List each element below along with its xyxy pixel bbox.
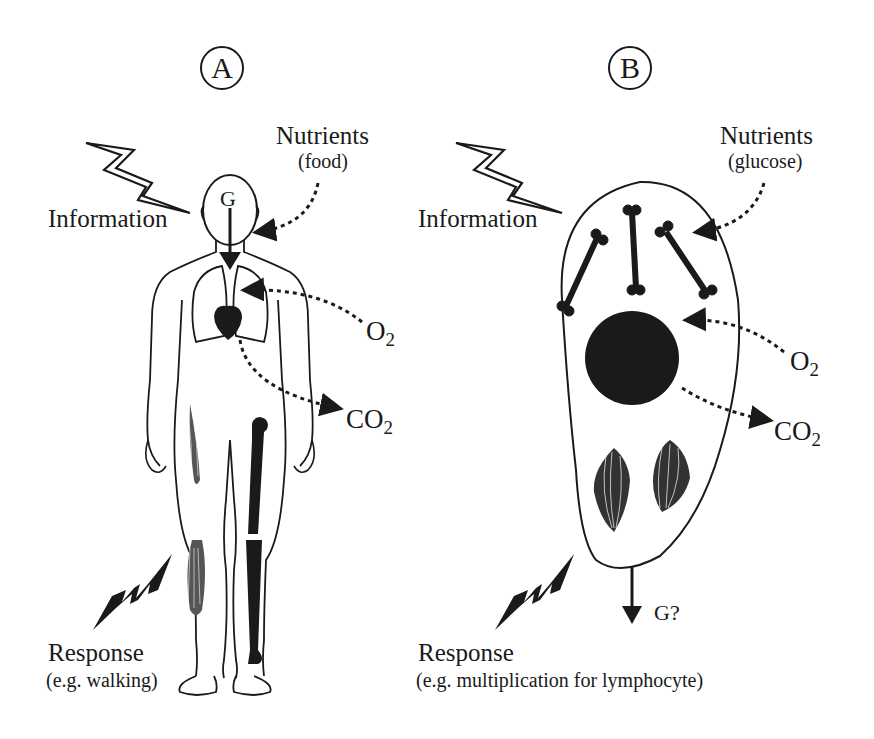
panel-a-information-label: Information xyxy=(48,206,167,231)
diagram-figure: A Information Nutrients (food) G O2 CO2 … xyxy=(0,0,874,739)
panel-a-nutrients-label: Nutrients xyxy=(276,123,369,148)
panel-a-response-label: Response xyxy=(48,640,144,665)
co2-arrow xyxy=(240,340,338,408)
panel-b-co2-label: CO2 xyxy=(774,418,821,450)
tibia-bone-icon xyxy=(246,540,262,664)
panel-a-response-sub: (e.g. walking) xyxy=(46,670,158,690)
co2-arrow xyxy=(682,388,768,420)
panel-a-co2-label: CO2 xyxy=(346,406,393,438)
heart-icon xyxy=(214,306,242,340)
nutrients-arrow xyxy=(258,183,318,232)
panel-a-nutrients-sub: (food) xyxy=(298,151,348,171)
response-lightning-icon xyxy=(495,554,574,630)
femur-bone-icon xyxy=(248,417,268,534)
panel-b-nutrients-label: Nutrients xyxy=(720,123,813,148)
panel-a-label: A xyxy=(200,46,244,90)
nucleus-icon xyxy=(585,311,679,405)
body-outline xyxy=(147,240,312,678)
muscle-fibre-icon xyxy=(594,448,630,532)
information-lightning-icon xyxy=(86,143,190,213)
o2-arrow xyxy=(688,320,784,352)
feet-outline xyxy=(179,676,270,695)
panel-b-label: B xyxy=(608,46,652,90)
panel-b-information-label: Information xyxy=(418,206,537,231)
panel-b-genome-label: G? xyxy=(654,602,680,624)
panel-b-response-label: Response xyxy=(418,640,514,665)
nutrients-arrow xyxy=(698,183,764,232)
panel-b-nutrients-sub: (glucose) xyxy=(728,151,802,171)
genome-question-arrow-icon xyxy=(622,606,642,624)
panel-b-response-sub: (e.g. multiplication for lymphocyte) xyxy=(416,670,703,690)
response-lightning-icon xyxy=(93,554,172,630)
o2-arrow xyxy=(246,290,362,322)
diagram-artwork xyxy=(0,0,874,739)
panel-a-o2-label: O2 xyxy=(366,318,395,350)
panel-a-genome-label: G xyxy=(220,188,236,210)
information-lightning-icon xyxy=(456,143,562,213)
bones-icons xyxy=(557,205,717,316)
panel-b-o2-label: O2 xyxy=(790,348,819,380)
